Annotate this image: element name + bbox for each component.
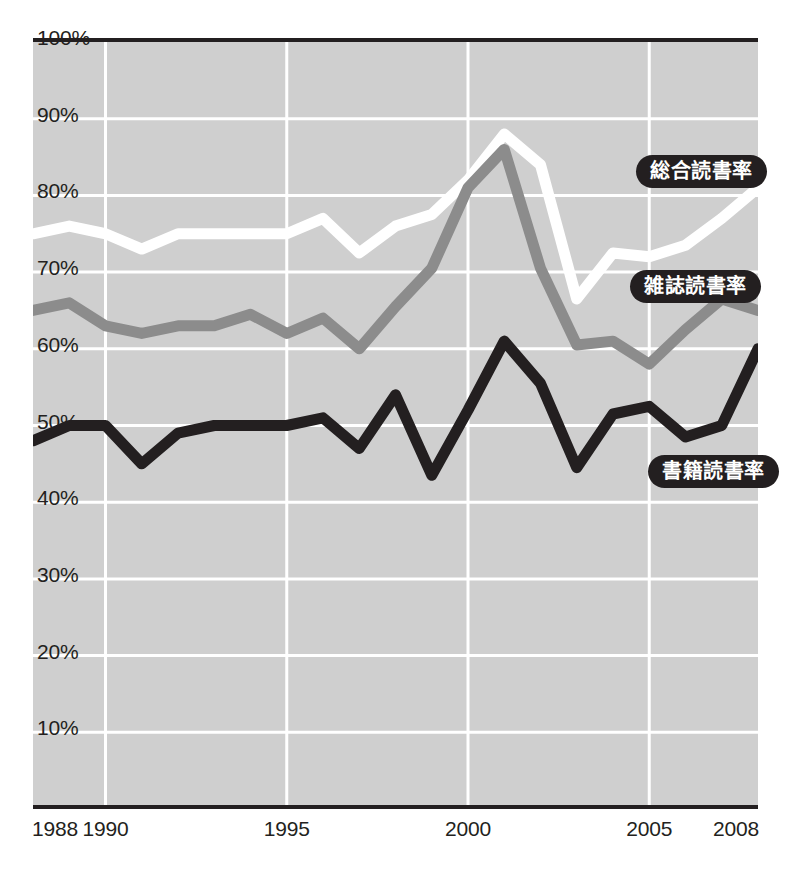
- y-axis-tick-label: 20%: [37, 641, 78, 662]
- plot-area: [33, 38, 758, 809]
- series-callout-1: 総合読書率: [636, 155, 767, 188]
- x-axis-tick-label: 2005: [626, 818, 672, 839]
- x-axis-tick-label: 1988: [32, 818, 78, 839]
- series-callout-3: 書籍読書率: [648, 455, 779, 488]
- y-axis-tick-label: 10%: [37, 717, 78, 738]
- y-axis-tick-label: 90%: [37, 104, 78, 125]
- x-axis-tick-label: 2008: [713, 818, 759, 839]
- series-callout-2: 雑誌読書率: [630, 270, 761, 303]
- x-axis-baseline: [33, 805, 758, 809]
- y-axis-tick-label: 80%: [37, 180, 78, 201]
- x-axis-tick-label: 1990: [83, 818, 129, 839]
- y-axis-tick-label: 70%: [37, 257, 78, 278]
- y-axis-tick-label: 40%: [37, 487, 78, 508]
- x-axis-tick-label: 2000: [445, 818, 491, 839]
- x-axis-tick-label: 1995: [264, 818, 310, 839]
- y-axis-tick-label: 30%: [37, 564, 78, 585]
- y-axis-tick-label: 60%: [37, 334, 78, 355]
- y-axis-tick-label: 50%: [37, 411, 78, 432]
- y-axis-tick-label: 100%: [37, 27, 90, 48]
- reading-rate-line-chart: 10%20%30%40%50%60%70%80%90%100% 19881990…: [0, 0, 794, 870]
